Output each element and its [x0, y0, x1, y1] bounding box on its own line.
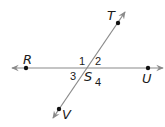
label-r: R [23, 52, 32, 67]
label-v: V [62, 107, 72, 122]
point-v [57, 107, 61, 111]
label-u: U [142, 71, 152, 86]
angle-4-label: 4 [95, 76, 101, 88]
line-tv [53, 12, 125, 118]
point-t [116, 21, 120, 25]
diagram-svg: R T U V S 1 2 3 4 [0, 0, 165, 127]
angle-3-label: 3 [70, 70, 76, 82]
angle-1-label: 1 [79, 55, 85, 67]
angle-2-label: 2 [95, 55, 101, 67]
label-t: T [107, 8, 116, 23]
angle-diagram: R T U V S 1 2 3 4 [0, 0, 165, 127]
point-u [146, 66, 150, 70]
label-s: S [84, 69, 92, 84]
